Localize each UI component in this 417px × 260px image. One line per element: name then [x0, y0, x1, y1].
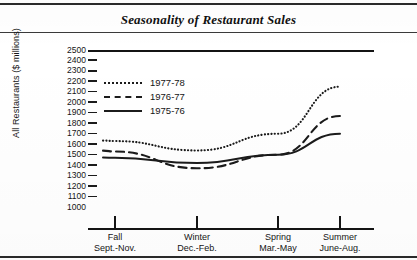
- figure-root: Seasonality of Restaurant Sales All Rest…: [0, 0, 417, 260]
- plot-area: All Restaurants ($ millions) 25002400230…: [0, 0, 417, 260]
- page-rule-bottom: [0, 256, 417, 258]
- series-lines: [0, 0, 417, 260]
